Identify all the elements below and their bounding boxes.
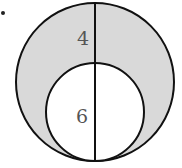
bullet-marker xyxy=(1,11,5,15)
label-outer-segment: 4 xyxy=(77,27,89,49)
circle-diagram: 4 6 xyxy=(0,0,182,168)
label-inner-diameter: 6 xyxy=(76,105,88,127)
